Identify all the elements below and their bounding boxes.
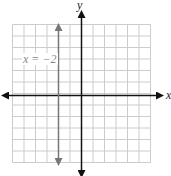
coordinate-plane <box>0 0 171 176</box>
equation-label: x = −2 <box>22 53 58 65</box>
x-axis-label: x <box>166 89 171 101</box>
y-axis-label: y <box>77 0 82 11</box>
